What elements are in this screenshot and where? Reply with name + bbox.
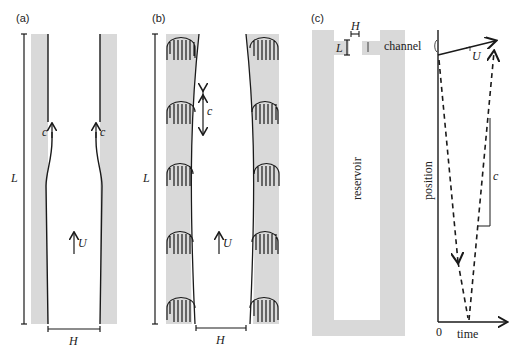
channel-length-label: L <box>335 41 343 55</box>
flow-label: U <box>78 236 88 250</box>
panel-b-label: (b) <box>152 12 165 24</box>
panel-b: (b) c L U <box>142 12 279 347</box>
width-label: H <box>215 333 226 347</box>
y-axis-label: position <box>421 161 435 200</box>
plot-wave-label: c <box>493 169 499 183</box>
panel-a: (a) c c L U H <box>10 12 117 348</box>
wave-label-right: c <box>100 125 106 139</box>
wave-label-left: c <box>42 125 48 139</box>
panel-c-label: (c) <box>311 12 324 24</box>
reservoir-label: reservoir <box>350 157 364 200</box>
wave-down-trajectory <box>439 60 458 262</box>
plot-flow-label: U <box>472 49 482 63</box>
width-label: H <box>68 334 79 348</box>
right-wall <box>100 34 117 324</box>
left-wall <box>31 34 48 324</box>
length-label: L <box>142 171 150 185</box>
channel-label: channel <box>384 39 422 53</box>
origin-label: 0 <box>436 325 442 339</box>
position-time-plot: 0 time position U c <box>421 30 506 341</box>
x-axis-label: time <box>457 327 478 341</box>
flow-label: U <box>223 236 233 250</box>
wave-label: c <box>207 104 213 118</box>
length-label: L <box>10 171 18 185</box>
channel-width-label: H <box>350 19 361 33</box>
panel-a-label: (a) <box>16 12 29 24</box>
figure: (a) c c L U H (b) <box>0 0 520 353</box>
panel-c: (c) H L channel reservoir 0 time positio… <box>311 12 506 341</box>
